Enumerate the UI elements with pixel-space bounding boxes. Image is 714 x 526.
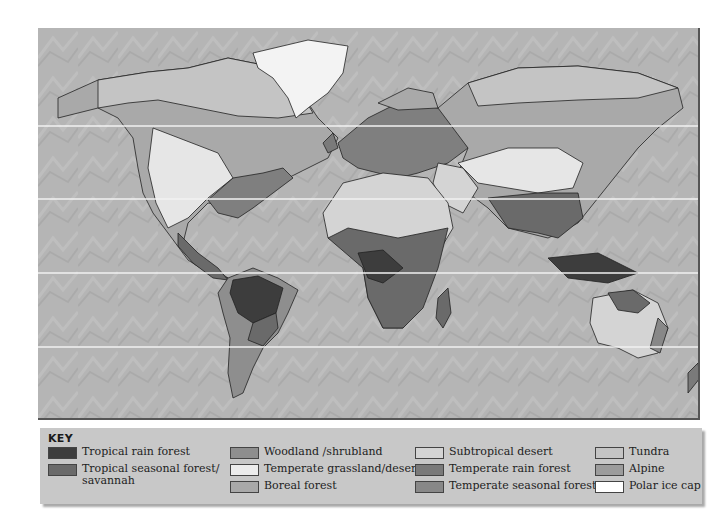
swatch-temperate-seasonal-forest xyxy=(415,481,444,493)
swatch-temperate-grassland-desert xyxy=(230,464,259,476)
key-item-subtropical-desert: Subtropical desert xyxy=(415,446,596,463)
swatch-temperate-rain-forest xyxy=(415,464,444,476)
key-item-tundra: Tundra xyxy=(595,446,701,463)
swatch-subtropical-desert xyxy=(415,447,444,459)
key-item-polar-ice-cap: Polar ice cap xyxy=(595,480,701,497)
swatch-tundra xyxy=(595,447,624,459)
key-item-temperate-grassland-desert: Temperate grassland/desert xyxy=(230,463,421,480)
swatch-tropical-rain-forest xyxy=(48,447,77,459)
key-item-tropical-rain-forest: Tropical rain forest xyxy=(48,446,219,463)
swatch-polar-ice-cap xyxy=(595,481,624,493)
key-item-boreal-forest: Boreal forest xyxy=(230,480,421,497)
key-title: KEY xyxy=(48,432,73,445)
key-column-4: Tundra Alpine Polar ice cap xyxy=(595,446,701,497)
key-item-temperate-rain-forest: Temperate rain forest xyxy=(415,463,596,480)
key-item-tropical-seasonal-forest: Tropical seasonal forest/ savannah xyxy=(48,463,219,493)
swatch-boreal-forest xyxy=(230,481,259,493)
key-item-alpine: Alpine xyxy=(595,463,701,480)
key-column-2: Woodland /shrubland Temperate grassland/… xyxy=(230,446,421,497)
swatch-tropical-seasonal-forest xyxy=(48,464,77,476)
key-column-1: Tropical rain forest Tropical seasonal f… xyxy=(48,446,219,493)
map-key: KEY Tropical rain forest Tropical season… xyxy=(40,428,702,504)
swatch-woodland-shrubland xyxy=(230,447,259,459)
map-canvas xyxy=(38,28,700,420)
world-biome-map xyxy=(38,28,700,420)
key-column-3: Subtropical desert Temperate rain forest… xyxy=(415,446,596,497)
key-item-woodland-shrubland: Woodland /shrubland xyxy=(230,446,421,463)
swatch-alpine xyxy=(595,464,624,476)
key-item-temperate-seasonal-forest: Temperate seasonal forest xyxy=(415,480,596,497)
